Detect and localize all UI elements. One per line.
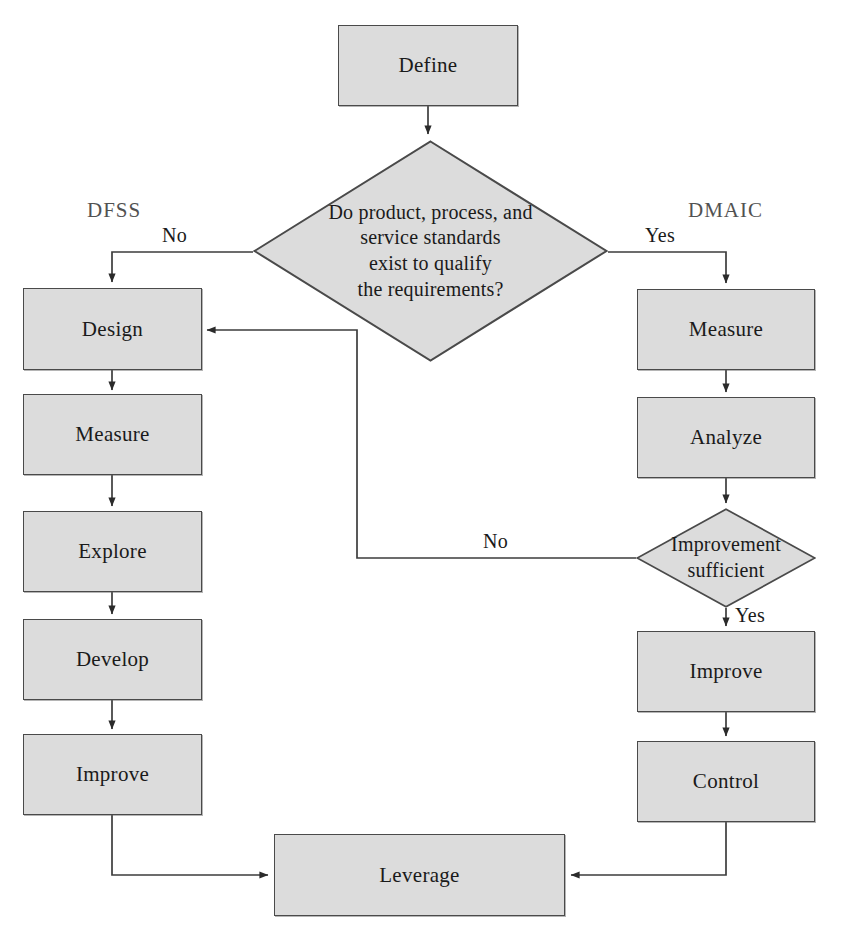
node-right-improve-label: Improve — [689, 659, 762, 683]
decision-improvement-line-2: sufficient — [671, 558, 781, 584]
edge-label-no-feedback: No — [483, 530, 508, 553]
node-left-develop-label: Develop — [76, 647, 149, 671]
edge-decision-yes-to-measure — [608, 252, 726, 283]
node-right-measure[interactable]: Measure — [637, 289, 815, 370]
node-right-improve[interactable]: Improve — [637, 631, 815, 712]
node-decision-standards[interactable]: Do product, process, and service standar… — [253, 140, 608, 362]
node-right-analyze[interactable]: Analyze — [637, 397, 815, 478]
node-right-measure-label: Measure — [689, 317, 763, 341]
node-left-measure-label: Measure — [75, 422, 149, 446]
node-right-control[interactable]: Control — [637, 741, 815, 822]
decision-improvement-line-1: Improvement — [671, 532, 781, 558]
edge-right-control-to-leverage — [571, 822, 726, 875]
edge-left-improve-to-leverage — [112, 815, 268, 875]
decision-standards-line-3: exist to qualify — [328, 251, 532, 277]
node-left-develop[interactable]: Develop — [23, 619, 202, 700]
node-left-improve-label: Improve — [76, 762, 149, 786]
node-left-design[interactable]: Design — [23, 288, 202, 370]
node-leverage[interactable]: Leverage — [274, 834, 565, 916]
decision-standards-line-4: the requirements? — [328, 277, 532, 303]
edge-decision-no-to-design — [112, 252, 253, 282]
edge-improvement-no-feedback — [207, 330, 636, 558]
node-define-label: Define — [399, 53, 458, 77]
decision-standards-label: Do product, process, and service standar… — [253, 140, 608, 362]
node-right-analyze-label: Analyze — [690, 425, 762, 449]
node-define[interactable]: Define — [338, 25, 518, 106]
node-right-control-label: Control — [693, 769, 759, 793]
node-left-explore[interactable]: Explore — [23, 511, 202, 592]
decision-improvement-label: Improvement sufficient — [636, 508, 816, 608]
edge-label-yes-right: Yes — [645, 224, 675, 247]
edge-label-no-left: No — [162, 224, 187, 247]
decision-standards-line-1: Do product, process, and — [328, 200, 532, 226]
node-left-explore-label: Explore — [78, 539, 147, 563]
node-left-improve[interactable]: Improve — [23, 734, 202, 815]
node-left-measure[interactable]: Measure — [23, 394, 202, 475]
flowchart-canvas: Define Do product, process, and service … — [0, 0, 842, 940]
node-left-design-label: Design — [82, 317, 143, 341]
node-decision-improvement[interactable]: Improvement sufficient — [636, 508, 816, 608]
node-leverage-label: Leverage — [379, 863, 460, 887]
decision-standards-line-2: service standards — [328, 225, 532, 251]
branch-title-dmaic: DMAIC — [688, 198, 763, 223]
branch-title-dfss: DFSS — [87, 198, 141, 223]
